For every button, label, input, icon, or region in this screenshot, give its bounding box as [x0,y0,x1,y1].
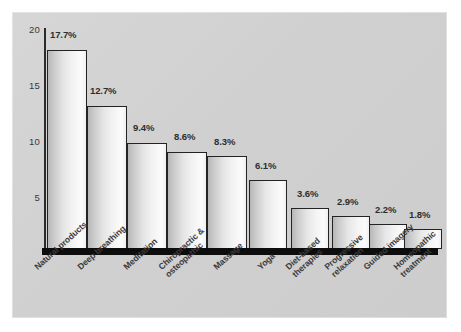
bar-yoga[interactable] [249,180,287,249]
bar-value-label: 3.6% [297,188,318,199]
bar-value-label: 8.3% [214,136,235,147]
bar-value-label: 2.2% [375,204,396,215]
bar-massage[interactable] [207,156,247,249]
bar-value-label: 8.6% [174,131,195,142]
figure: 20 15 10 5 17.7% 12.7% 9.4% 8.6% 8.3% 6.… [0,0,461,332]
bar-value-label: 2.9% [337,196,358,207]
bar-value-label: 17.7% [50,29,76,40]
bar-value-label: 1.8% [409,209,430,220]
bar-value-label: 9.4% [133,122,154,133]
bar-value-label: 12.7% [90,85,116,96]
bars-layer: 17.7% 12.7% 9.4% 8.6% 8.3% 6.1% 3.6% 2.9… [0,0,461,332]
bar-meditation[interactable] [127,143,167,249]
bar-value-label: 6.1% [255,160,276,171]
